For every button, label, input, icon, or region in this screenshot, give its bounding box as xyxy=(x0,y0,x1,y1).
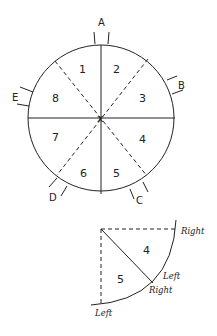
section-2-label: 2 xyxy=(113,63,120,76)
detail-quadrant: 4 5 Right Left Right Left xyxy=(91,220,205,318)
section-5-label: 5 xyxy=(113,167,120,180)
section-3-label: 3 xyxy=(139,92,146,105)
door-c: C xyxy=(130,182,148,206)
door-b: B xyxy=(167,76,185,94)
door-b-label: B xyxy=(178,80,185,91)
door-a-label: A xyxy=(98,17,105,28)
room-circle: x 1 2 3 4 5 6 7 8 A B C D xyxy=(12,17,185,206)
section-8-label: 8 xyxy=(52,92,59,105)
door-d-label: D xyxy=(49,192,57,203)
section-1-label: 1 xyxy=(79,63,86,76)
detail-section-4-label: 4 xyxy=(143,244,150,257)
section-7-label: 7 xyxy=(52,131,59,144)
section-6-label: 6 xyxy=(80,167,87,180)
section-4-label: 4 xyxy=(139,133,146,146)
detail-label-right-top: Right xyxy=(180,226,205,236)
door-d: D xyxy=(49,178,67,203)
door-e-label: E xyxy=(12,92,18,103)
detail-section-5-label: 5 xyxy=(117,273,124,286)
center-mark: x xyxy=(97,112,104,125)
detail-label-left-bottom: Left xyxy=(94,308,113,318)
detail-label-right-mid: Right xyxy=(148,285,173,295)
door-a: A xyxy=(94,17,109,44)
diagram-canvas: x 1 2 3 4 5 6 7 8 A B C D xyxy=(0,0,217,336)
detail-label-left-mid: Left xyxy=(162,271,181,281)
door-c-label: C xyxy=(136,195,143,206)
